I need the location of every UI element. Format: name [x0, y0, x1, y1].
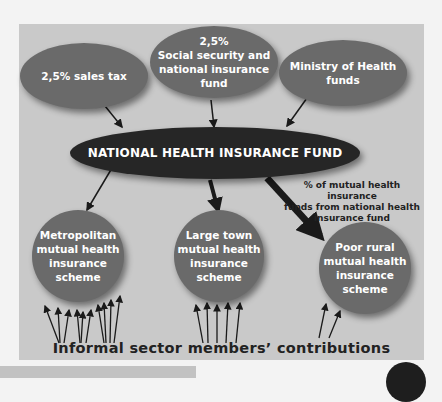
scheme-large-town: Large town mutual health insurance schem… [174, 210, 264, 302]
scheme-label-line: scheme [36, 270, 119, 284]
contribution-arrows-metropolitan [45, 296, 120, 343]
source-label-line: Ministry of Health [290, 59, 397, 73]
scheme-label-line: insurance [177, 256, 260, 270]
annotation-line: insurance fund [282, 213, 422, 224]
arrow-sales-tax [105, 106, 122, 127]
footer-contributions-label: Informal sector members’ contributions [19, 340, 424, 356]
arrow-to-metropolitan [87, 168, 112, 210]
source-label: 2,5% sales tax [41, 69, 127, 83]
decorative-blob [386, 362, 426, 402]
scheme-label-line: Metropolitan [36, 228, 119, 242]
arrow-social-security [211, 100, 214, 127]
arrow-to-large-town [210, 180, 218, 210]
source-ministry-of-health: Ministry of Health funds [279, 40, 407, 106]
scheme-label-line: Poor rural [323, 240, 406, 254]
source-label-line: funds [290, 73, 397, 87]
source-sales-tax: 2,5% sales tax [20, 43, 148, 109]
bottom-bar [0, 366, 196, 378]
national-health-insurance-fund: NATIONAL HEALTH INSURANCE FUND [70, 127, 360, 179]
annotation-line: % of mutual health insurance [282, 180, 422, 202]
scheme-label-line: insurance [36, 256, 119, 270]
annotation-line: funds from national health [282, 202, 422, 213]
scheme-label-line: mutual health [36, 242, 119, 256]
scheme-poor-rural: Poor rural mutual health insurance schem… [319, 222, 411, 314]
scheme-label-line: mutual health [323, 254, 406, 268]
scheme-label-line: scheme [177, 270, 260, 284]
scheme-label-line: mutual health [177, 242, 260, 256]
annotation-note: % of mutual health insurance funds from … [282, 180, 422, 224]
source-label-line: Social security and [158, 48, 270, 62]
scheme-metropolitan: Metropolitan mutual health insurance sch… [32, 210, 124, 302]
central-label: NATIONAL HEALTH INSURANCE FUND [88, 146, 343, 160]
contribution-arrows-large-town [196, 303, 240, 343]
source-label-line: fund [158, 76, 270, 90]
source-label-line: national insurance [158, 62, 270, 76]
scheme-label-line: Large town [177, 228, 260, 242]
source-label-line: 2,5% [158, 34, 270, 48]
contribution-arrows-poor-rural [319, 304, 340, 338]
scheme-label-line: scheme [323, 282, 406, 296]
arrow-ministry [287, 98, 307, 126]
scheme-label-line: insurance [323, 268, 406, 282]
source-social-security: 2,5% Social security and national insura… [150, 26, 278, 98]
